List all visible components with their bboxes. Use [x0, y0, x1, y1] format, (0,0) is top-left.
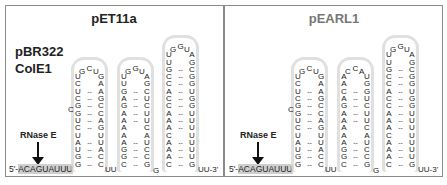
base-pair-bond: --: [131, 161, 141, 168]
base-pair-bond: --: [351, 139, 361, 146]
panel-title: pET11a: [5, 11, 223, 26]
base-pair-bond: --: [396, 66, 406, 73]
nucleotide: C: [165, 161, 173, 168]
base-pair-bond: --: [85, 153, 95, 160]
rnase-e-label: RNase E: [240, 130, 277, 140]
panel-pet11a: pET11a pBR322 ColE1 RNase E 5'-ACAGUAUUU…: [5, 5, 223, 177]
linker-sequence: UU: [105, 165, 117, 174]
bulge-nucleotide: C: [288, 105, 294, 114]
base-pair-bond: --: [176, 80, 186, 87]
nucleotide: G: [408, 161, 416, 168]
nucleotide: G: [294, 161, 302, 168]
base-pair-bond: --: [131, 88, 141, 95]
bulge-nucleotide: C: [68, 105, 74, 114]
loop-nucleotide: U: [313, 67, 319, 76]
base-pair-bond: --: [85, 117, 95, 124]
base-pair-bond: --: [176, 153, 186, 160]
loop-nucleotide: G: [390, 45, 396, 54]
base-pair-bond: --: [396, 73, 406, 80]
loop-nucleotide: G: [170, 45, 176, 54]
loop-nucleotide: C: [353, 64, 359, 73]
base-pair-bond: --: [351, 146, 361, 153]
base-pair-bond: --: [396, 110, 406, 117]
loop-nucleotide: U: [139, 67, 145, 76]
base-pair-bond: --: [176, 102, 186, 109]
base-pair-bond: --: [396, 161, 406, 168]
nucleotide: C: [317, 161, 325, 168]
base-pair-bond: --: [131, 102, 141, 109]
three-prime-end: UU-3': [418, 165, 438, 174]
base-pair-bond: --: [305, 139, 315, 146]
rnase-e-label: RNase E: [20, 130, 57, 140]
loop-nucleotide: U: [404, 45, 410, 54]
base-pair-bond: --: [351, 102, 361, 109]
base-pair-bond: --: [305, 153, 315, 160]
base-pair-bond: --: [176, 146, 186, 153]
highlighted-sequence: ACAGUAUUU: [18, 164, 72, 174]
loop-nucleotide: G: [125, 67, 131, 76]
base-pair-bond: --: [131, 146, 141, 153]
loop-nucleotide: G: [398, 42, 404, 51]
base-pair-bond: --: [351, 153, 361, 160]
base-pair-bond: --: [305, 117, 315, 124]
base-pair-bond: --: [305, 110, 315, 117]
five-prime-end: 5'-ACAGUAUUU: [229, 164, 293, 174]
loop-nucleotide: A: [359, 67, 364, 76]
loop-nucleotide: G: [178, 42, 184, 51]
base-pair-bond: --: [176, 124, 186, 131]
linker-sequence: G: [373, 166, 379, 175]
loop-nucleotide: G: [133, 64, 139, 73]
base-pair-bond: --: [396, 117, 406, 124]
nucleotide: C: [340, 161, 348, 168]
base-pair-bond: --: [85, 88, 95, 95]
base-pair-bond: --: [396, 80, 406, 87]
nucleotide: C: [120, 161, 128, 168]
base-pair-bond: --: [85, 124, 95, 131]
base-pair-bond: --: [176, 117, 186, 124]
base-pair-bond: --: [305, 161, 315, 168]
panel-pearl1: pEARL1 RNase E 5'-ACAGUAUUU UGCAUA--CG--…: [225, 5, 443, 177]
base-pair-bond: --: [176, 73, 186, 80]
loop-nucleotide: C: [345, 67, 351, 76]
base-pair-bond: --: [351, 117, 361, 124]
base-pair-bond: --: [396, 153, 406, 160]
nucleotide: G: [188, 161, 196, 168]
base-pair-bond: --: [131, 110, 141, 117]
loop-nucleotide: C: [307, 64, 313, 73]
plasmid-label-line: pBR322: [15, 43, 63, 60]
nucleotide: C: [97, 161, 105, 168]
base-pair-bond: --: [176, 139, 186, 146]
base-pair-bond: --: [396, 102, 406, 109]
base-pair-bond: --: [176, 95, 186, 102]
linker-sequence: UU: [325, 165, 337, 174]
linker-sequence: G: [153, 166, 159, 175]
nucleotide: G: [143, 161, 151, 168]
nucleotide: C: [385, 161, 393, 168]
base-pair-bond: --: [131, 153, 141, 160]
base-pair-bond: --: [396, 124, 406, 131]
base-pair-bond: --: [85, 95, 95, 102]
plasmid-label: pBR322 ColE1: [15, 43, 63, 77]
base-pair-bond: --: [176, 88, 186, 95]
base-pair-bond: --: [131, 139, 141, 146]
base-pair-bond: --: [85, 102, 95, 109]
base-pair-bond: --: [85, 139, 95, 146]
base-pair-bond: --: [396, 95, 406, 102]
base-pair-bond: --: [131, 95, 141, 102]
base-pair-bond: --: [351, 110, 361, 117]
base-pair-bond: --: [85, 161, 95, 168]
nucleotide: G: [363, 161, 371, 168]
base-pair-bond: --: [305, 124, 315, 131]
nucleotide: G: [74, 161, 82, 168]
loop-nucleotide: C: [87, 64, 93, 73]
highlighted-sequence: ACAGUAUUU: [238, 164, 292, 174]
five-prime-end: 5'-ACAGUAUUU: [9, 164, 73, 174]
base-pair-bond: --: [396, 88, 406, 95]
base-pair-bond: --: [85, 146, 95, 153]
base-pair-bond: --: [351, 95, 361, 102]
loop-nucleotide: U: [184, 45, 190, 54]
base-pair-bond: --: [131, 117, 141, 124]
loop-nucleotide: U: [93, 67, 99, 76]
base-pair-bond: --: [351, 161, 361, 168]
base-pair-bond: --: [85, 110, 95, 117]
